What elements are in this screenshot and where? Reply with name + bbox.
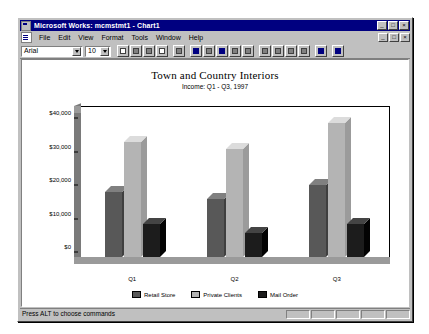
line-chart-icon[interactable]	[259, 45, 271, 57]
bar-group-q2	[183, 106, 285, 257]
bar-face	[124, 142, 141, 257]
status-pane	[361, 310, 385, 319]
font-name-combo[interactable]: Arial	[21, 46, 83, 57]
help-icon[interactable]	[332, 45, 344, 57]
chevron-down-icon[interactable]	[100, 47, 109, 56]
chevron-down-icon[interactable]	[72, 47, 81, 56]
document-window-controls: _ □ ×	[378, 33, 410, 42]
chart-title: Town and Country Interiors	[22, 69, 408, 81]
document-minimize-button[interactable]: _	[378, 33, 388, 42]
bar-mail-order-q3[interactable]	[347, 224, 364, 257]
legend-swatch	[132, 291, 141, 298]
pie-chart-icon[interactable]	[216, 45, 228, 57]
x-axis-tick-label: Q1	[128, 276, 136, 282]
legend-label: Mail Order	[270, 292, 298, 298]
y-axis-tick-mark	[74, 118, 78, 119]
menu-item-view[interactable]: View	[74, 32, 97, 43]
combo-chart-icon[interactable]	[298, 45, 310, 57]
bar-side-3d	[160, 218, 166, 257]
window-title: Microsoft Works: mcmstmt1 - Chart1	[34, 20, 377, 31]
y-axis-tick-label: $30,000	[49, 144, 71, 150]
minimize-button[interactable]: _	[377, 21, 387, 30]
print-icon[interactable]	[143, 45, 155, 57]
y-axis-tick-label: $20,000	[49, 177, 71, 183]
y-axis-tick-label: $10,000	[49, 211, 71, 217]
menu-item-file[interactable]: File	[35, 32, 54, 43]
y-axis-tick-mark	[74, 251, 78, 252]
legend-swatch	[191, 291, 200, 298]
status-pane	[386, 310, 410, 319]
bar-side-3d	[364, 218, 370, 257]
bar-face	[143, 224, 160, 257]
bold-icon[interactable]	[190, 45, 202, 57]
axis-wall-3d	[74, 103, 81, 264]
status-pane	[311, 310, 335, 319]
print-preview-icon[interactable]	[156, 45, 168, 57]
bar-retail-store-q3[interactable]	[309, 185, 326, 257]
plot-area: $0$10,000$20,000$30,000$40,000 Q1Q2Q3	[74, 106, 390, 264]
y-axis-tick-mark	[74, 185, 78, 186]
chart-legend: Retail StorePrivate ClientsMail Order	[22, 291, 408, 298]
bar-face	[245, 233, 262, 257]
bar-face	[226, 149, 243, 257]
bar-face	[347, 224, 364, 257]
menu-item-format[interactable]: Format	[97, 32, 127, 43]
status-pane	[336, 310, 360, 319]
maximize-button[interactable]: □	[388, 21, 398, 30]
title-bar: Microsoft Works: mcmstmt1 - Chart1 _ □ ×	[20, 20, 410, 31]
bar-private-clients-q1[interactable]	[124, 142, 141, 257]
chart-type-icon[interactable]	[315, 45, 327, 57]
y-axis-tick-label: $0	[64, 244, 71, 250]
chart-subtitle: Income: Q1 - Q3, 1997	[22, 83, 408, 90]
menu-bar: File Edit View Format Tools Window Help …	[20, 32, 410, 43]
bar-private-clients-q2[interactable]	[226, 149, 243, 257]
underline-icon[interactable]	[203, 45, 215, 57]
legend-item-retail-store[interactable]: Retail Store	[132, 291, 175, 298]
scatter-chart-icon[interactable]	[285, 45, 297, 57]
column-chart-icon[interactable]	[242, 45, 254, 57]
plot-wrapper: $0$10,000$20,000$30,000$40,000 Q1Q2Q3 Re…	[22, 104, 408, 306]
legend-swatch	[258, 291, 267, 298]
status-message: Press ALT to choose commands	[20, 309, 285, 319]
bar-chart-icon[interactable]	[229, 45, 241, 57]
document-restore-button[interactable]: □	[389, 33, 399, 42]
bar-face	[105, 192, 122, 257]
y-axis-tick-mark	[74, 218, 78, 219]
bar-mail-order-q1[interactable]	[143, 224, 160, 257]
document-icon[interactable]	[21, 32, 32, 43]
legend-label: Private Clients	[203, 292, 242, 298]
close-button[interactable]: ×	[399, 21, 409, 30]
bar-retail-store-q2[interactable]	[207, 199, 224, 257]
bar-face	[328, 123, 345, 257]
menu-item-window[interactable]: Window	[152, 32, 185, 43]
save-icon[interactable]	[130, 45, 142, 57]
status-panes	[285, 310, 410, 319]
menu-item-help[interactable]: Help	[185, 32, 207, 43]
font-size-value: 10	[86, 46, 99, 56]
bar-private-clients-q3[interactable]	[328, 123, 345, 257]
works-icon	[21, 21, 31, 31]
copy-icon[interactable]	[173, 45, 185, 57]
x-axis-tick-label: Q2	[230, 276, 238, 282]
x-axis-tick-label: Q3	[333, 276, 341, 282]
y-axis-tick-label: $40,000	[49, 110, 71, 116]
axis-wall-top-3d	[74, 106, 81, 113]
font-size-combo[interactable]: 10	[85, 46, 111, 57]
bar-face	[309, 185, 326, 257]
bar-mail-order-q2[interactable]	[245, 233, 262, 257]
menu-item-tools[interactable]: Tools	[128, 32, 152, 43]
document-close-button[interactable]: ×	[400, 33, 410, 42]
application-window: Microsoft Works: mcmstmt1 - Chart1 _ □ ×…	[17, 17, 413, 322]
area-chart-icon[interactable]	[272, 45, 284, 57]
menu-item-edit[interactable]: Edit	[54, 32, 74, 43]
legend-item-mail-order[interactable]: Mail Order	[258, 291, 298, 298]
status-pane	[286, 310, 310, 319]
new-icon[interactable]	[117, 45, 129, 57]
status-bar: Press ALT to choose commands	[20, 308, 410, 319]
bar-retail-store-q1[interactable]	[105, 192, 122, 257]
chart-canvas[interactable]: Town and Country Interiors Income: Q1 - …	[21, 59, 409, 307]
axis-floor-3d	[74, 257, 390, 264]
legend-label: Retail Store	[144, 292, 175, 298]
bar-group-q3	[286, 106, 388, 257]
legend-item-private-clients[interactable]: Private Clients	[191, 291, 242, 298]
